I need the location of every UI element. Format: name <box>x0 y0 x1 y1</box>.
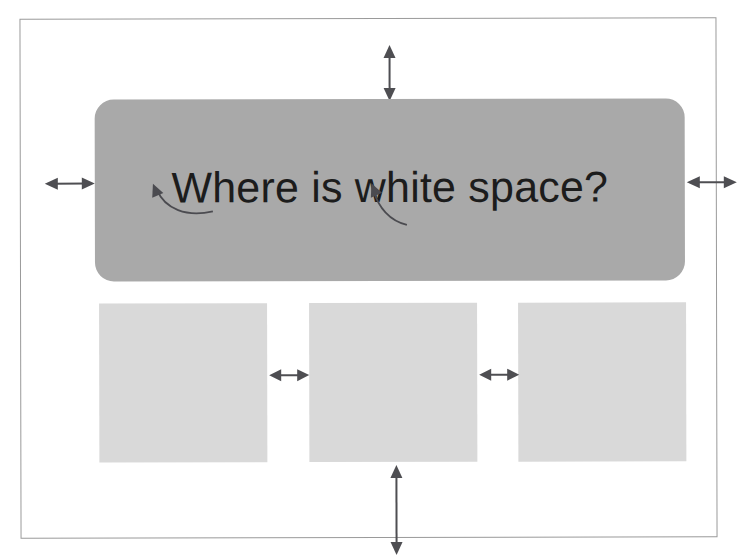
top-margin-arrow <box>376 45 404 101</box>
content-box-3 <box>518 302 686 461</box>
headline-panel: Where is white space? <box>95 98 685 281</box>
slide-frame: Where is white space? <box>19 17 717 538</box>
left-margin-arrow <box>45 170 95 198</box>
content-box-1 <box>99 303 267 462</box>
right-margin-arrow <box>687 168 737 196</box>
content-box-2 <box>309 303 477 462</box>
gap-arrow-box2-box3 <box>479 363 519 387</box>
bottom-margin-arrow <box>383 465 409 555</box>
gap-arrow-box1-box2 <box>269 363 309 387</box>
page-title: Where is white space? <box>95 98 685 281</box>
